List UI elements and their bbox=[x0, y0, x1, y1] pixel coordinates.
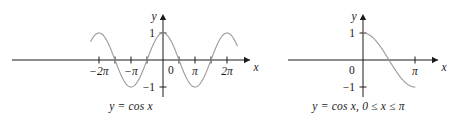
y-axis-arrow bbox=[360, 14, 366, 20]
y-tick-label: −1 bbox=[143, 81, 155, 93]
y-tick-label: −1 bbox=[343, 81, 355, 93]
x-axis-label: x bbox=[252, 61, 259, 73]
x-axis-label: x bbox=[440, 61, 447, 73]
x-tick-label: 2π bbox=[221, 65, 234, 77]
y-axis-label: y bbox=[350, 10, 357, 23]
x-axis-arrow bbox=[432, 57, 438, 63]
right-plot-svg: yxπ1−10 bbox=[262, 0, 455, 100]
origin-label: 0 bbox=[168, 64, 174, 76]
left-plot-caption: y = cos x bbox=[0, 100, 262, 112]
left-plot-panel: yx−2π−ππ2π1−10 y = cos x bbox=[0, 0, 262, 127]
right-plot-caption: y = cos x, 0 ≤ x ≤ π bbox=[262, 100, 455, 112]
right-plot-panel: yxπ1−10 y = cos x, 0 ≤ x ≤ π bbox=[262, 0, 455, 127]
y-axis-label: y bbox=[150, 10, 157, 23]
x-tick-label: −2π bbox=[89, 65, 110, 77]
origin-label: 0 bbox=[349, 64, 355, 76]
x-tick-label: π bbox=[192, 65, 199, 77]
y-axis-arrow bbox=[160, 14, 166, 20]
left-plot-svg: yx−2π−ππ2π1−10 bbox=[0, 0, 262, 100]
x-tick-label: −π bbox=[124, 65, 139, 77]
x-axis-arrow bbox=[244, 57, 250, 63]
x-tick-label: π bbox=[412, 65, 419, 77]
cosine-figure: yx−2π−ππ2π1−10 y = cos x yxπ1−10 y = cos… bbox=[0, 0, 455, 127]
y-tick-label: 1 bbox=[149, 27, 155, 39]
y-tick-label: 1 bbox=[349, 27, 355, 39]
